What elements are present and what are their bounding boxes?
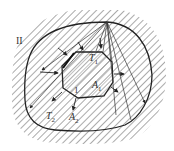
enclosure-diagram [0,0,174,151]
region-label-outer: II [16,36,23,46]
inner-area-label: A1 [92,80,102,93]
region-label-inner: 1 [74,86,79,95]
outer-temperature-label: T2 [46,111,55,124]
inner-temperature-label: T1 [89,53,98,66]
outer-area-label: A2 [69,112,79,125]
diagram-canvas: II T1 A1 1 T2 A2 [0,0,174,151]
